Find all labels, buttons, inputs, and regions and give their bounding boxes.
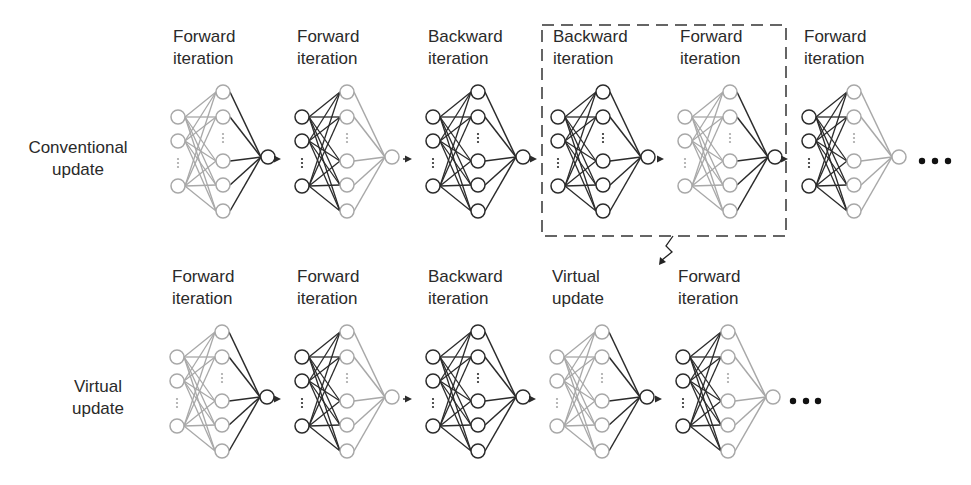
hidden-node xyxy=(595,394,609,408)
input-ellipsis-icon xyxy=(432,398,434,408)
hidden-output-edges xyxy=(609,332,640,451)
input-node xyxy=(551,134,565,148)
output-node xyxy=(385,390,399,404)
hidden-output-edges xyxy=(229,332,260,451)
input-node xyxy=(295,419,309,433)
hidden-node xyxy=(471,418,485,432)
hidden-node xyxy=(471,154,485,168)
hidden-node xyxy=(340,418,354,432)
hidden-node xyxy=(215,394,229,408)
hidden-node xyxy=(596,178,610,192)
hidden-node xyxy=(721,350,735,364)
input-hidden-edges xyxy=(564,332,595,451)
hidden-node xyxy=(471,350,485,364)
hidden-node xyxy=(596,85,610,99)
input-ellipsis-icon xyxy=(176,398,178,408)
hidden-output-edges xyxy=(610,92,641,211)
output-node xyxy=(385,150,399,164)
hidden-node xyxy=(340,178,354,192)
input-node xyxy=(171,179,185,193)
continuation-ellipsis-icon xyxy=(919,158,951,164)
row-virtual: VirtualupdateForwarditerationForwarditer… xyxy=(72,267,821,458)
callout-group xyxy=(659,236,673,265)
neural-network xyxy=(426,85,530,218)
hidden-ellipsis-icon xyxy=(346,373,348,383)
hidden-node xyxy=(340,110,354,124)
input-node xyxy=(802,179,816,193)
input-hidden-edges xyxy=(565,92,596,211)
input-node xyxy=(802,134,816,148)
input-node xyxy=(678,179,692,193)
hidden-node xyxy=(471,178,485,192)
hidden-node xyxy=(340,85,354,99)
input-node xyxy=(426,374,440,388)
hidden-node xyxy=(595,418,609,432)
input-hidden-edges xyxy=(440,332,471,451)
hidden-node xyxy=(723,204,737,218)
input-hidden-edges xyxy=(816,92,847,211)
stage-title: Forwarditeration xyxy=(172,267,234,308)
hidden-output-edges xyxy=(354,92,385,211)
hidden-node xyxy=(723,110,737,124)
hidden-ellipsis-icon xyxy=(346,133,348,143)
stage-title: Backwarditeration xyxy=(553,27,628,68)
hidden-output-edges xyxy=(230,92,261,211)
hidden-node xyxy=(596,204,610,218)
input-node xyxy=(295,110,309,124)
hidden-node xyxy=(721,325,735,339)
hidden-output-edges xyxy=(737,92,768,211)
flow-arrow-icon xyxy=(530,156,537,163)
neural-network xyxy=(426,325,530,458)
hidden-node xyxy=(471,85,485,99)
hidden-node xyxy=(723,154,737,168)
input-hidden-edges xyxy=(309,92,340,211)
output-node xyxy=(640,390,654,404)
output-node xyxy=(892,150,906,164)
hidden-node xyxy=(471,325,485,339)
row-label: Conventionalupdate xyxy=(28,138,127,179)
hidden-output-edges xyxy=(485,92,516,211)
input-node xyxy=(295,374,309,388)
flow-arrow-icon xyxy=(657,156,664,163)
hidden-node xyxy=(215,325,229,339)
input-node xyxy=(551,110,565,124)
stage-title: Virtualupdate xyxy=(552,267,604,308)
input-node xyxy=(170,419,184,433)
stage-title: Forwarditeration xyxy=(804,27,866,68)
hidden-ellipsis-icon xyxy=(602,133,604,143)
input-ellipsis-icon xyxy=(177,158,179,168)
hidden-node xyxy=(721,444,735,458)
stage-title: Forwarditeration xyxy=(297,27,359,68)
stage-title: Backwarditeration xyxy=(428,27,503,68)
input-node xyxy=(171,110,185,124)
stage-title: Forwarditeration xyxy=(680,27,742,68)
output-node xyxy=(516,390,530,404)
neural-network xyxy=(170,325,274,458)
row-label: Virtualupdate xyxy=(72,377,124,418)
neural-network xyxy=(676,325,780,458)
hidden-node xyxy=(723,178,737,192)
hidden-node xyxy=(215,418,229,432)
hidden-node xyxy=(721,418,735,432)
hidden-node xyxy=(595,325,609,339)
output-node xyxy=(260,390,274,404)
input-hidden-edges xyxy=(692,92,723,211)
hidden-node xyxy=(847,178,861,192)
input-node xyxy=(426,419,440,433)
input-ellipsis-icon xyxy=(682,398,684,408)
flow-arrow-icon xyxy=(403,156,412,163)
input-node xyxy=(676,350,690,364)
input-node xyxy=(676,374,690,388)
hidden-node xyxy=(847,154,861,168)
input-ellipsis-icon xyxy=(557,158,559,168)
hidden-node xyxy=(215,350,229,364)
output-node xyxy=(261,150,275,164)
input-ellipsis-icon xyxy=(432,158,434,168)
hidden-node xyxy=(596,110,610,124)
hidden-node xyxy=(596,154,610,168)
neural-network xyxy=(551,85,655,218)
flow-arrow-icon xyxy=(781,156,788,163)
output-node xyxy=(641,150,655,164)
hidden-node xyxy=(216,178,230,192)
input-hidden-edges xyxy=(309,332,340,451)
